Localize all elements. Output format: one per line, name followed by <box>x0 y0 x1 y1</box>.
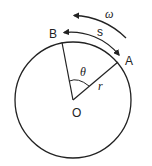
arc-length-arrow <box>64 32 119 55</box>
label-omega: ω <box>105 7 113 21</box>
label-r: r <box>98 79 103 93</box>
theta-angle-arc <box>70 80 90 86</box>
circular-motion-diagram: B A O θ r s ω <box>0 0 152 166</box>
label-theta: θ <box>80 65 86 79</box>
radius-ob <box>62 43 73 101</box>
label-s: s <box>97 25 103 39</box>
label-a: A <box>125 54 133 68</box>
label-o: O <box>72 106 81 120</box>
label-b: B <box>49 27 57 41</box>
